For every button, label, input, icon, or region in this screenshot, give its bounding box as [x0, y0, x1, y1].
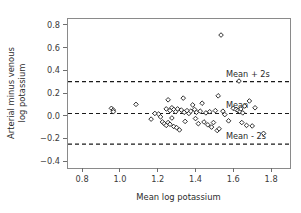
data-point [183, 119, 188, 124]
bland-altman-figure: −0.4−0.20.00.20.40.60.80.81.01.21.41.61.… [0, 0, 301, 213]
x-tick-label: 1.0 [113, 174, 126, 184]
x-tick-label: 0.8 [76, 174, 89, 184]
data-point [211, 120, 216, 125]
data-point [219, 33, 224, 38]
data-point [202, 120, 207, 125]
data-point [193, 116, 198, 121]
data-point [181, 96, 186, 101]
data-point [190, 103, 195, 108]
data-point [166, 98, 171, 103]
x-axis-title: Mean log potassium [136, 192, 220, 202]
y-tick-label: 0.4 [47, 65, 60, 75]
data-point [216, 94, 221, 99]
data-point [250, 124, 255, 129]
y-axis: −0.4−0.20.00.20.40.60.8 [40, 20, 67, 166]
y-axis-title-line: Arterial minus venous [6, 47, 16, 139]
data-points [109, 33, 266, 136]
data-point [244, 123, 249, 128]
data-point [200, 101, 205, 106]
y-axis-title-line: log potassium [17, 64, 27, 123]
data-point [213, 108, 218, 113]
data-point [253, 105, 258, 110]
x-tick-label: 1.8 [265, 174, 278, 184]
y-tick-label: −0.2 [40, 133, 60, 143]
data-point [134, 102, 139, 107]
y-tick-label: 0.0 [47, 111, 60, 121]
data-point [240, 120, 245, 125]
data-point [237, 79, 242, 84]
data-point [226, 119, 231, 124]
y-tick-label: −0.4 [40, 156, 60, 166]
reference-line-label: Mean - 2s [226, 131, 266, 141]
reference-line-label: Mean + 2s [226, 69, 270, 79]
plot-frame [67, 18, 290, 168]
y-axis-title: Arterial minus venouslog potassium [6, 47, 27, 139]
x-tick-label: 1.6 [227, 174, 240, 184]
data-point [149, 117, 154, 122]
y-tick-label: 0.8 [47, 20, 60, 30]
x-tick-label: 1.4 [189, 174, 202, 184]
data-point [196, 121, 201, 126]
x-tick-label: 1.2 [151, 174, 164, 184]
y-tick-label: 0.6 [47, 43, 60, 53]
data-point [170, 116, 175, 121]
scatter-plot-canvas: −0.4−0.20.00.20.40.60.80.81.01.21.41.61.… [0, 0, 301, 213]
y-tick-label: 0.2 [47, 88, 60, 98]
x-axis: 0.81.01.21.41.61.8 [76, 168, 278, 184]
